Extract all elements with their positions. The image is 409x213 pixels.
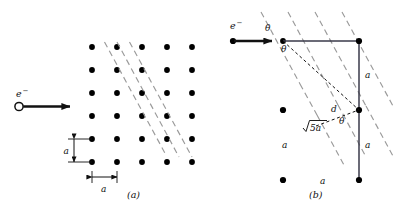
lattice-dot [139, 67, 145, 73]
spacing-label-vertical-a: a [64, 146, 69, 156]
lattice-dot [189, 44, 195, 50]
lattice-dot [89, 90, 95, 96]
lattice-dot [139, 44, 145, 50]
lattice-dot [89, 113, 95, 119]
lattice-dot [89, 44, 95, 50]
lattice-dot-top-right [356, 38, 362, 44]
panel-caption-b: (b) [309, 189, 323, 200]
lattice-dot [189, 136, 195, 142]
lattice-dots-a [89, 44, 195, 165]
lattice-dot [89, 67, 95, 73]
electron-symbol-b: e [230, 20, 236, 31]
electron-label-a: e − [16, 87, 29, 100]
path-difference-label-d: d [331, 104, 337, 114]
horizontal-spacing-marker-a [92, 171, 117, 183]
lattice-dot [114, 90, 120, 96]
lattice-plane-line [117, 42, 179, 157]
lattice-plane-line [105, 42, 167, 155]
theta-label-lower-vertex: θ [339, 116, 345, 126]
lattice-dot [139, 136, 145, 142]
vertical-spacing-marker-a [68, 139, 92, 162]
lattice-dot [164, 90, 170, 96]
electron-label-b: e − [230, 19, 243, 32]
lattice-dot-bottom-left [280, 177, 286, 183]
theta-label-incident-lower: θ [281, 44, 287, 54]
lattice-dot [114, 136, 120, 142]
lattice-dot [114, 159, 120, 165]
figure-svg: e − [0, 0, 409, 213]
spacing-label-horizontal-a: a [101, 184, 106, 194]
lattice-dot [114, 67, 120, 73]
hypotenuse-line [283, 41, 359, 110]
length-label-a-bottom-horizontal: a [320, 176, 325, 186]
lattice-dot [139, 159, 145, 165]
lattice-plane-line [342, 12, 393, 106]
lattice-dot [189, 90, 195, 96]
figure-container: e − [0, 0, 409, 213]
lattice-dot-bottom-right [356, 177, 362, 183]
lattice-planes-b [261, 12, 394, 167]
lattice-plane-line [366, 106, 394, 158]
lattice-plane-line [130, 42, 193, 157]
lattice-dot [189, 67, 195, 73]
length-label-a-lower-right: a [365, 140, 370, 150]
lattice-dot [189, 159, 195, 165]
length-label-a-left-column: a [282, 140, 287, 150]
lattice-dot [164, 159, 170, 165]
lattice-dot [114, 113, 120, 119]
electron-charge-superscript-a: − [23, 87, 29, 95]
lattice-dot [164, 44, 170, 50]
length-label-a-upper-right: a [365, 70, 370, 80]
electron-source-circle-a [15, 102, 23, 110]
lattice-plane-line [338, 105, 366, 157]
lattice-plane-line [288, 12, 338, 105]
hypotenuse-label-radicand: 5a [310, 123, 321, 133]
lattice-dot [164, 67, 170, 73]
electron-symbol-a: e [16, 88, 22, 99]
theta-label-incident-upper: θ [265, 23, 271, 33]
panel-b: e − θ θ a a a a d [230, 12, 394, 200]
panel-caption-a: (a) [127, 189, 140, 200]
lattice-dot-mid-left [280, 107, 286, 113]
panel-a: e − [15, 42, 195, 200]
lattice-dot [189, 113, 195, 119]
electron-charge-superscript-b: − [237, 19, 243, 27]
lattice-plane-line [300, 84, 317, 115]
